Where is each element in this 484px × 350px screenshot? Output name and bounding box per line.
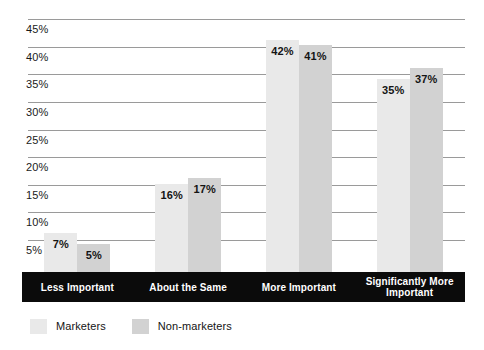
bar-1-3[interactable]: 37% — [410, 68, 443, 272]
bar-0-3[interactable]: 35% — [377, 79, 410, 272]
bar-chart: 45%40%35%30%25%20%15%10%5% 7%5%16%17%42%… — [0, 0, 484, 350]
bar-value-label: 7% — [44, 238, 77, 250]
legend-swatch-icon — [132, 319, 149, 334]
category-label-2: More Important — [244, 272, 355, 302]
legend-label: Non-marketers — [158, 320, 232, 332]
category-axis-strip: Less ImportantAbout the SameMore Importa… — [22, 272, 465, 302]
bar-1-1[interactable]: 17% — [188, 178, 221, 272]
category-label-0: Less Important — [22, 272, 133, 302]
bar-value-label: 16% — [155, 189, 188, 201]
bar-value-label: 35% — [377, 84, 410, 96]
bar-1-2[interactable]: 41% — [299, 45, 332, 272]
chart-legend: MarketersNon-marketers — [30, 316, 258, 336]
plot-area: 45%40%35%30%25%20%15%10%5% 7%5%16%17%42%… — [0, 0, 484, 272]
category-label-1: About the Same — [133, 272, 244, 302]
bars-layer: 7%5%16%17%42%41%35%37% — [0, 0, 484, 272]
legend-swatch-icon — [30, 319, 47, 334]
bar-0-1[interactable]: 16% — [155, 184, 188, 272]
bar-1-0[interactable]: 5% — [77, 244, 110, 272]
bar-value-label: 5% — [77, 249, 110, 261]
bar-0-0[interactable]: 7% — [44, 233, 77, 272]
bar-value-label: 17% — [188, 183, 221, 195]
bar-value-label: 41% — [299, 50, 332, 62]
bar-value-label: 42% — [266, 45, 299, 57]
category-label-3: Significantly More Important — [354, 272, 465, 302]
bar-value-label: 37% — [410, 73, 443, 85]
legend-item-0[interactable]: Marketers — [30, 319, 106, 334]
legend-item-1[interactable]: Non-marketers — [132, 319, 232, 334]
legend-label: Marketers — [56, 320, 106, 332]
bar-0-2[interactable]: 42% — [266, 40, 299, 272]
